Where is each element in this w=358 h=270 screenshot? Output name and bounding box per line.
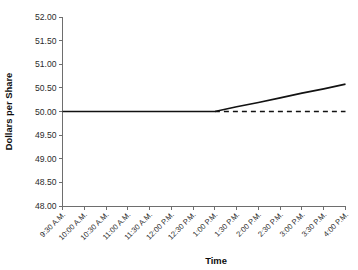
x-axis: 9:30 A.M.10:00 A.M.10:30 A.M.11:00 A.M.1… — [38, 206, 350, 242]
chart-container: 52.0051.5051.0050.5050.0049.5049.0048.50… — [0, 0, 358, 270]
y-axis-tick-label: 49.50 — [35, 130, 57, 140]
y-axis-tick-label: 48.50 — [35, 177, 57, 187]
y-axis-tick-label: 48.00 — [35, 201, 57, 211]
series-layer — [63, 84, 346, 111]
y-axis: 52.0051.5051.0050.5050.0049.5049.0048.50… — [35, 12, 63, 211]
line-chart: 52.0051.5051.0050.5050.0049.5049.0048.50… — [0, 0, 358, 270]
y-axis-tick-label: 50.50 — [35, 83, 57, 93]
axis-titles: Dollars per ShareTime — [3, 73, 227, 266]
y-axis-tick-label: 51.00 — [35, 59, 57, 69]
series-line-price — [63, 84, 346, 111]
y-axis-tick-label: 51.50 — [35, 36, 57, 46]
y-axis-title: Dollars per Share — [3, 73, 14, 151]
x-axis-title: Time — [205, 255, 227, 266]
y-axis-tick-label: 52.00 — [35, 12, 57, 22]
y-axis-tick-label: 50.00 — [35, 107, 57, 117]
y-axis-tick-label: 49.00 — [35, 154, 57, 164]
